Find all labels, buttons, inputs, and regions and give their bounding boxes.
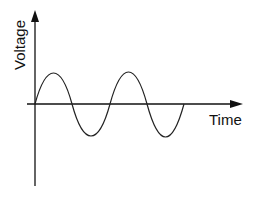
y-axis-arrow-icon (31, 10, 39, 22)
x-axis-arrow-icon (230, 100, 243, 108)
x-axis-label: Time (209, 111, 242, 128)
y-axis-label: Voltage (11, 20, 28, 70)
sine-wave-diagram: Voltage Time (0, 0, 256, 200)
